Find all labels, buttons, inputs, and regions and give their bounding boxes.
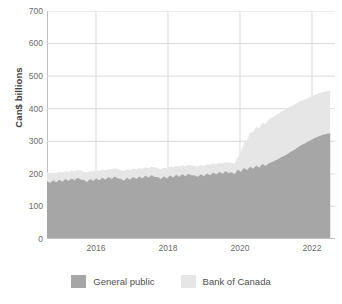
legend-item-bank-of-canada[interactable]: Bank of Canada [181, 275, 271, 288]
y-tick-200: 200 [13, 170, 43, 179]
plot-area [47, 11, 335, 239]
y-tick-500: 500 [13, 72, 43, 81]
x-tick-2018: 2018 [143, 244, 193, 253]
chart-legend: General public Bank of Canada [0, 275, 342, 288]
x-tick-2022: 2022 [287, 244, 337, 253]
area-chart: Can$ billions 700 600 500 400 300 200 10… [0, 0, 342, 304]
legend-label-bank-of-canada: Bank of Canada [203, 276, 271, 287]
legend-label-general-public: General public [93, 276, 154, 287]
legend-item-general-public[interactable]: General public [71, 275, 154, 288]
y-tick-100: 100 [13, 202, 43, 211]
plot-svg [47, 11, 335, 239]
legend-swatch-bank-of-canada [181, 275, 196, 288]
y-tick-400: 400 [13, 105, 43, 114]
y-tick-600: 600 [13, 39, 43, 48]
y-tick-300: 300 [13, 137, 43, 146]
y-tick-700: 700 [13, 7, 43, 16]
x-axis-tick-labels: 2016 2018 2020 2022 [0, 244, 342, 258]
y-axis-tick-labels: 700 600 500 400 300 200 100 0 [10, 0, 43, 304]
x-tick-2016: 2016 [71, 244, 121, 253]
x-tick-2020: 2020 [215, 244, 265, 253]
y-tick-0: 0 [13, 235, 43, 244]
legend-swatch-general-public [71, 275, 86, 288]
